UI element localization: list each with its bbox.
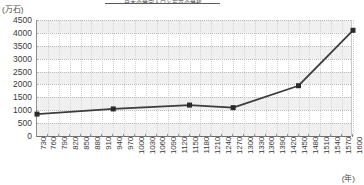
x-tick-label: 1450 <box>301 137 309 154</box>
x-tick-mark <box>156 134 157 137</box>
x-tick-label: 1240 <box>225 137 233 154</box>
x-tick-label: 1540 <box>334 137 342 154</box>
y-tick-label: 3000 <box>13 54 32 63</box>
x-tick-mark <box>243 134 244 137</box>
y-tick-label: 2000 <box>13 80 32 89</box>
series-line <box>37 30 353 114</box>
x-tick-label: 1360 <box>268 137 276 154</box>
x-tick-label: 790 <box>61 137 69 150</box>
x-tick-label: 1060 <box>159 137 167 154</box>
x-axis-unit-label: (年) <box>342 174 355 183</box>
x-tick-label: 1480 <box>312 137 320 154</box>
x-tick-label: 1180 <box>203 137 211 153</box>
data-point-marker <box>351 28 356 33</box>
x-tick-mark <box>221 134 222 137</box>
x-tick-mark <box>90 134 91 137</box>
x-tick-label: 1000 <box>138 137 146 154</box>
x-tick-label: 1330 <box>258 137 266 154</box>
x-tick-mark <box>319 134 320 137</box>
data-point-marker <box>296 83 301 88</box>
x-tick-mark <box>308 134 309 137</box>
x-tick-label: 730 <box>40 137 48 150</box>
x-tick-mark <box>167 134 168 137</box>
x-tick-mark <box>178 134 179 137</box>
x-tick-mark <box>112 134 113 137</box>
x-tick-label: 760 <box>50 137 58 150</box>
x-tick-mark <box>330 134 331 137</box>
x-tick-mark <box>232 134 233 137</box>
x-tick-label: 1120 <box>181 137 189 153</box>
x-tick-mark <box>199 134 200 137</box>
y-tick-label: 1000 <box>13 106 32 115</box>
x-tick-mark <box>276 134 277 137</box>
x-tick-label: 1210 <box>214 137 222 154</box>
y-tick-label: 4000 <box>13 28 32 37</box>
data-point-marker <box>111 106 116 111</box>
x-tick-label: 820 <box>72 137 80 150</box>
x-tick-label: 1270 <box>236 137 244 154</box>
x-tick-label: 1090 <box>170 137 178 154</box>
x-tick-mark <box>145 134 146 137</box>
y-tick-label: 500 <box>18 119 32 128</box>
y-tick-label: 1500 <box>13 93 32 102</box>
x-tick-label: 1570 <box>345 137 353 154</box>
x-tick-mark <box>101 134 102 137</box>
x-tick-mark <box>265 134 266 137</box>
x-tick-mark <box>352 134 353 137</box>
data-point-marker <box>231 105 236 110</box>
series-line-chart <box>37 20 353 136</box>
x-tick-mark <box>254 134 255 137</box>
x-tick-label: 1420 <box>290 137 298 154</box>
y-axis-unit-label: (万石) <box>2 5 23 14</box>
x-tick-label: 1600 <box>356 137 364 154</box>
x-tick-mark <box>189 134 190 137</box>
x-tick-mark <box>134 134 135 137</box>
x-tick-label: 1300 <box>247 137 255 154</box>
y-axis-tick-labels: 450040003500300025002000150010005000 <box>0 20 34 136</box>
vertical-gridline <box>353 20 354 136</box>
x-tick-label: 880 <box>94 137 102 150</box>
data-point-marker <box>187 103 192 108</box>
x-tick-mark <box>298 134 299 137</box>
y-tick-label: 2500 <box>13 67 32 76</box>
x-tick-label: 940 <box>116 137 124 150</box>
x-tick-label: 1510 <box>323 137 331 154</box>
x-tick-label: 1030 <box>149 137 157 154</box>
x-tick-label: 850 <box>83 137 91 150</box>
y-tick-label: 4500 <box>13 16 32 25</box>
x-tick-label: 970 <box>127 137 135 150</box>
x-tick-mark <box>80 134 81 137</box>
x-axis-tick-labels: 7307607908208508809109409701000103010601… <box>36 137 352 177</box>
x-tick-mark <box>123 134 124 137</box>
y-tick-label: 3500 <box>13 41 32 50</box>
x-tick-mark <box>58 134 59 137</box>
x-tick-mark <box>287 134 288 137</box>
x-tick-mark <box>341 134 342 137</box>
x-tick-label: 1150 <box>192 137 200 153</box>
x-tick-mark <box>210 134 211 137</box>
x-tick-label: 910 <box>105 137 113 150</box>
x-tick-mark <box>47 134 48 137</box>
data-point-marker <box>35 112 40 117</box>
y-tick-label: 0 <box>27 132 32 141</box>
x-tick-mark <box>36 134 37 137</box>
x-tick-label: 1390 <box>279 137 287 154</box>
plot-area <box>36 20 352 136</box>
chart-title: 日本の推定人口と石高の推移 <box>105 0 220 4</box>
x-tick-mark <box>69 134 70 137</box>
